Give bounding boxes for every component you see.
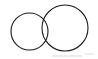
- figure-canvas: Two overlapping circles: [0, 0, 98, 59]
- diagram-background: [0, 0, 98, 59]
- two-circles-diagram: Two overlapping circles: [0, 0, 98, 59]
